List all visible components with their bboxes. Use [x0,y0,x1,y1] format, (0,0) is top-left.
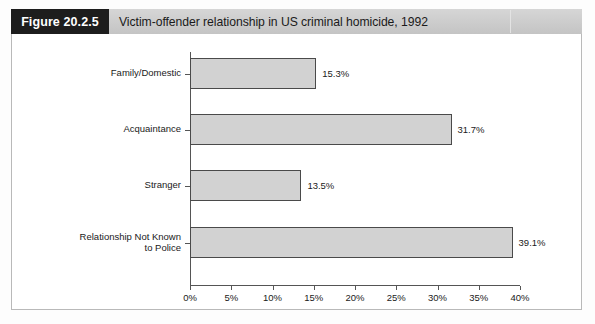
figure-header: Figure 20.2.5 Victim-offender relationsh… [11,9,582,34]
bar [190,114,452,145]
x-axis-tick-label: 5% [224,292,238,303]
bar [190,170,301,201]
bar-value-label: 39.1% [519,237,546,248]
figure-container: Figure 20.2.5 Victim-offender relationsh… [0,0,595,324]
x-axis-tick-label: 0% [183,292,197,303]
x-axis-tick-label: 20% [345,292,364,303]
category-label: Relationship Not Knownto Police [21,231,181,254]
bar-value-label: 15.3% [322,68,349,79]
x-axis-tick-label: 40% [510,292,529,303]
category-label: Stranger [21,179,181,191]
x-axis-tick [231,286,232,290]
bar-value-label: 31.7% [458,124,485,135]
category-tick [185,130,190,131]
x-axis-tick [355,286,356,290]
x-axis-tick [190,286,191,290]
figure-number-tag: Figure 20.2.5 [11,9,109,34]
x-axis-tick-label: 30% [428,292,447,303]
category-tick [185,186,190,187]
category-label: Acquaintance [21,123,181,135]
category-label: Family/Domestic [21,67,181,79]
header-divider [510,10,511,33]
x-axis-tick [273,286,274,290]
x-axis-tick [520,286,521,290]
x-axis-tick-label: 35% [469,292,488,303]
x-axis-tick [396,286,397,290]
chart-plot-area: 15.3%Family/Domestic31.7%Acquaintance13.… [11,34,582,310]
x-axis-tick-label: 15% [304,292,323,303]
x-axis-tick [314,286,315,290]
x-axis-tick-label: 25% [387,292,406,303]
bar-value-label: 13.5% [307,180,334,191]
category-tick [185,74,190,75]
category-tick [185,243,190,244]
x-axis-tick [479,286,480,290]
x-axis-tick-label: 10% [263,292,282,303]
x-axis-tick [438,286,439,290]
bar [190,227,513,258]
bar [190,58,316,89]
figure-title: Victim-offender relationship in US crimi… [119,9,428,34]
